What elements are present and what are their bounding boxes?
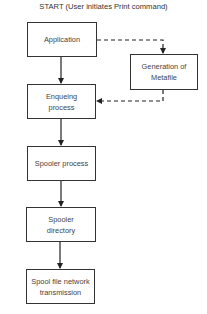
node-enqueing: Enqueing process xyxy=(27,84,96,119)
dashed-arrow-to-enqueing xyxy=(97,90,163,101)
node-application-label: Application xyxy=(44,34,80,45)
node-metafile: Generation of Metafile xyxy=(130,54,198,90)
node-spooler-directory-label: Spooler directory xyxy=(41,214,81,236)
node-spooler-process: Spooler process xyxy=(27,146,96,181)
node-spooler-directory: Spooler directory xyxy=(26,207,96,242)
node-spool-transmission: Spool file network transmission xyxy=(26,269,95,304)
node-application: Application xyxy=(27,22,97,57)
node-spooler-process-label: Spooler process xyxy=(35,158,88,169)
node-enqueing-label: Enqueing process xyxy=(42,91,82,113)
node-metafile-label: Generation of Metafile xyxy=(132,61,196,83)
dashed-arrow-to-metafile xyxy=(97,40,163,53)
node-spool-transmission-label: Spool file network transmission xyxy=(28,276,93,298)
